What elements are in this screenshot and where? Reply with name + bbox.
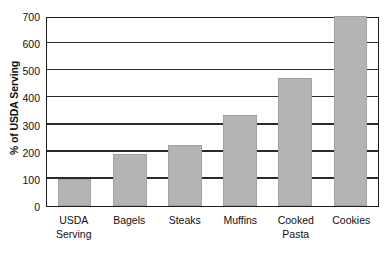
- bar-slot: [47, 18, 102, 206]
- x-axis-tick-label: USDAServing: [46, 214, 102, 260]
- y-axis-tick-label: 200: [22, 147, 40, 159]
- bar-slot: [323, 18, 378, 206]
- x-axis-tick-label: Cookies: [324, 214, 380, 260]
- plot-area: [46, 17, 379, 207]
- x-axis-tick-label: Steaks: [157, 214, 213, 260]
- bar-slot: [213, 18, 268, 206]
- bar: [113, 154, 147, 206]
- bar-chart: % of USDA Serving 0100200300400500600700…: [0, 0, 388, 264]
- bars-layer: [47, 18, 378, 206]
- bar-slot: [268, 18, 323, 206]
- bar: [334, 16, 368, 206]
- x-axis-tick-label: Bagels: [102, 214, 158, 260]
- y-axis-tick-label: 600: [22, 38, 40, 50]
- bar: [223, 115, 257, 206]
- bar: [58, 179, 92, 206]
- bar-slot: [157, 18, 212, 206]
- x-axis-tick-label: CookedPasta: [268, 214, 324, 260]
- x-axis-tick-label: Muffins: [213, 214, 269, 260]
- y-axis-tick-label: 300: [22, 120, 40, 132]
- x-axis-tick-labels: USDAServingBagelsSteaksMuffinsCookedPast…: [46, 214, 379, 260]
- bar-slot: [102, 18, 157, 206]
- y-axis-tick-label: 400: [22, 92, 40, 104]
- y-axis-tick-labels: 0100200300400500600700: [0, 0, 46, 264]
- y-axis-tick-label: 100: [22, 174, 40, 186]
- y-axis-tick-label: 700: [22, 11, 40, 23]
- bar: [168, 145, 202, 206]
- y-axis-tick-label: 500: [22, 65, 40, 77]
- bar: [278, 78, 312, 206]
- y-axis-tick-label: 0: [34, 201, 40, 213]
